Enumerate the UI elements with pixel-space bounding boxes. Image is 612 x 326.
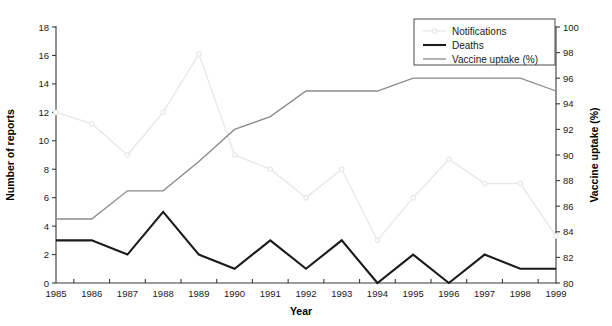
series-marker bbox=[411, 195, 415, 199]
x-axis-tick-label: 1989 bbox=[188, 288, 209, 299]
x-axis-tick-label: 1991 bbox=[260, 288, 281, 299]
y-axis-right-tick-label: 96 bbox=[563, 73, 574, 84]
legend-label-3: Vaccine uptake (%) bbox=[452, 54, 538, 65]
legend-label-2: Deaths bbox=[452, 40, 484, 51]
x-axis-tick-label: 1988 bbox=[153, 288, 174, 299]
series-marker bbox=[197, 52, 201, 56]
series-marker bbox=[554, 234, 558, 238]
x-axis-tick-label: 1986 bbox=[81, 288, 102, 299]
line-chart: 0246810121416188082848688909294969810019… bbox=[0, 0, 612, 326]
y-axis-right-tick-label: 90 bbox=[563, 150, 574, 161]
series-marker bbox=[232, 153, 236, 157]
series-marker bbox=[340, 167, 344, 171]
chart-container: 0246810121416188082848688909294969810019… bbox=[0, 0, 612, 326]
x-axis-tick-label: 1992 bbox=[295, 288, 316, 299]
y-axis-right-tick-label: 100 bbox=[563, 22, 579, 33]
y-axis-left-tick-label: 12 bbox=[38, 107, 49, 118]
y-axis-left-tick-label: 16 bbox=[38, 50, 49, 61]
y-axis-left-tick-label: 8 bbox=[44, 164, 49, 175]
series-marker bbox=[375, 238, 379, 242]
y-axis-right-tick-label: 80 bbox=[563, 278, 574, 289]
x-axis-tick-label: 1990 bbox=[224, 288, 245, 299]
x-axis-tick-label: 1999 bbox=[545, 288, 566, 299]
y-axis-left-tick-label: 4 bbox=[44, 221, 49, 232]
y-axis-right-tick-label: 82 bbox=[563, 252, 574, 263]
legend-label-1: Notifications bbox=[452, 26, 506, 37]
y-axis-left-tick-label: 10 bbox=[38, 135, 49, 146]
series-marker bbox=[447, 157, 451, 161]
y-axis-right-tick-label: 92 bbox=[563, 124, 574, 135]
y-axis-right-tick-label: 98 bbox=[563, 47, 574, 58]
legend-swatch-marker-1 bbox=[432, 29, 436, 33]
x-axis-tick-label: 1987 bbox=[117, 288, 138, 299]
x-axis-tick-label: 1996 bbox=[438, 288, 459, 299]
series-line-notifications bbox=[56, 54, 556, 240]
x-axis-tick-label: 1995 bbox=[403, 288, 424, 299]
y-axis-right-title: Vaccine uptake (%) bbox=[588, 107, 600, 202]
y-axis-left-tick-label: 0 bbox=[44, 278, 49, 289]
x-axis-tick-label: 1993 bbox=[331, 288, 352, 299]
y-axis-right-tick-label: 84 bbox=[563, 226, 574, 237]
series-marker bbox=[268, 167, 272, 171]
series-marker bbox=[90, 122, 94, 126]
series-line-deaths bbox=[56, 212, 556, 283]
x-axis-tick-label: 1998 bbox=[510, 288, 531, 299]
y-axis-left-tick-label: 6 bbox=[44, 192, 49, 203]
y-axis-left-tick-label: 2 bbox=[44, 249, 49, 260]
series-marker bbox=[482, 181, 486, 185]
series-marker bbox=[161, 110, 165, 114]
series-marker bbox=[54, 110, 58, 114]
y-axis-left-tick-label: 18 bbox=[38, 22, 49, 33]
x-axis-tick-label: 1994 bbox=[367, 288, 388, 299]
x-axis-tick-label: 1997 bbox=[474, 288, 495, 299]
y-axis-right-tick-label: 88 bbox=[563, 175, 574, 186]
series-marker bbox=[518, 181, 522, 185]
series-marker bbox=[304, 195, 308, 199]
x-axis-tick-label: 1985 bbox=[45, 288, 66, 299]
x-axis-title: Year bbox=[290, 305, 312, 317]
y-axis-right-tick-label: 94 bbox=[563, 98, 574, 109]
y-axis-left-title: Number of reports bbox=[4, 109, 16, 201]
y-axis-left-tick-label: 14 bbox=[38, 78, 49, 89]
y-axis-right-tick-label: 86 bbox=[563, 201, 574, 212]
series-marker bbox=[125, 153, 129, 157]
